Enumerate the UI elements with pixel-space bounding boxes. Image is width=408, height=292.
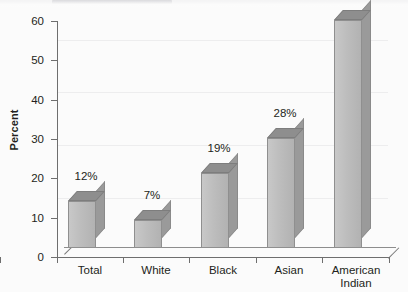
bar-value-label: 28% xyxy=(255,108,315,120)
y-tick-50 xyxy=(51,60,57,61)
y-tick-label-20: 20 xyxy=(8,173,44,185)
x-tick-boundary xyxy=(389,257,390,263)
bar-chart-figure: Percent 0 10 20 30 40 50 60 12% xyxy=(0,0,408,292)
x-label-line2: Indian xyxy=(313,277,399,290)
x-tick-boundary xyxy=(256,257,257,263)
plot-area: Percent 0 10 20 30 40 50 60 12% xyxy=(0,0,408,292)
bar-side xyxy=(96,181,105,238)
bar-face xyxy=(267,138,295,248)
x-label-line1: American xyxy=(313,264,399,277)
y-tick-60 xyxy=(51,21,57,22)
y-tick-label-60: 60 xyxy=(8,16,44,28)
bar-face xyxy=(334,20,362,248)
y-tick-label-50: 50 xyxy=(8,55,44,67)
bar-side xyxy=(362,0,371,238)
x-axis-line xyxy=(57,257,389,258)
y-tick-label-30: 30 xyxy=(8,134,44,146)
y-tick-label-10: 10 xyxy=(8,213,44,225)
x-tick-boundary xyxy=(57,257,58,263)
x-tick-spacer xyxy=(0,257,1,263)
bar-value-label: 7% xyxy=(122,190,182,202)
bar-value-label: 58% xyxy=(322,0,382,1)
bar-face xyxy=(134,220,162,248)
x-tick-boundary xyxy=(322,257,323,263)
y-axis-line xyxy=(57,21,58,258)
y-tick-30 xyxy=(51,139,57,140)
bar-face xyxy=(201,173,229,248)
bar-side xyxy=(162,200,171,238)
bar-value-label: 19% xyxy=(189,143,249,155)
y-tick-label-40: 40 xyxy=(8,95,44,107)
bar-face xyxy=(68,201,96,248)
x-label-american-indian: American Indian xyxy=(313,264,399,289)
x-tick-boundary xyxy=(189,257,190,263)
y-tick-10 xyxy=(51,218,57,219)
bar-value-label: 12% xyxy=(56,171,116,183)
y-tick-40 xyxy=(51,100,57,101)
floor-depth-left xyxy=(57,247,68,258)
y-tick-label-0: 0 xyxy=(8,252,44,264)
x-tick-boundary xyxy=(123,257,124,263)
